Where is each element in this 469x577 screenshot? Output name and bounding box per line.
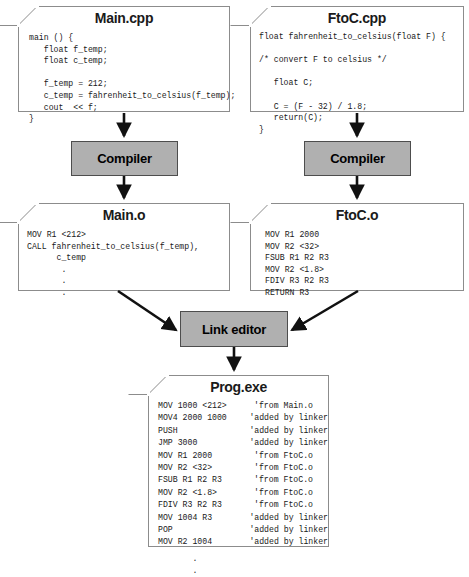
process-compiler-left[interactable]: Compiler bbox=[71, 141, 178, 176]
listing-instruction: JMP 3000 bbox=[158, 437, 249, 449]
listing-row: MOV R2 1004'added by linker bbox=[158, 536, 328, 548]
listing-comment: 'added by linker bbox=[249, 412, 328, 424]
listing-instruction: FDIV R3 R2 R3 bbox=[158, 499, 254, 511]
process-label-compiler-left: Compiler bbox=[97, 151, 152, 166]
listing-instruction: MOV 1000 <212> bbox=[158, 400, 254, 412]
document-ftoc-cpp: FtoC.cpp float fahrenheit_to_celsius(flo… bbox=[250, 6, 464, 112]
code-ftoc-o: MOV R1 2000 MOV R2 <32> FSUB R1 R2 R3 MO… bbox=[265, 229, 463, 299]
listing-instruction: FSUB R1 R2 R3 bbox=[158, 474, 254, 486]
document-ftoc-o: FtoC.o MOV R1 2000 MOV R2 <32> FSUB R1 R… bbox=[250, 203, 464, 291]
listing-row: MOV4 2000 1000'added by linker bbox=[158, 412, 328, 424]
listing-comment: 'added by linker bbox=[249, 425, 328, 437]
listing-row: MOV 1000 <212>'from Main.o bbox=[158, 400, 328, 412]
listing-row: POP'added by linker bbox=[158, 524, 328, 536]
listing-row: FSUB R1 R2 R3'from FtoC.o bbox=[158, 474, 328, 486]
document-prog-exe: Prog.exe MOV 1000 <212>'from Main.oMOV4 … bbox=[148, 375, 329, 547]
listing-instruction: MOV4 2000 1000 bbox=[158, 412, 249, 424]
listing-comment: 'from FtoC.o bbox=[254, 474, 313, 486]
document-title-prog-exe: Prog.exe bbox=[149, 376, 328, 395]
listing-instruction: MOV R2 1004 bbox=[158, 536, 249, 548]
process-compiler-right[interactable]: Compiler bbox=[304, 141, 411, 176]
process-label-link-editor: Link editor bbox=[202, 322, 266, 337]
listing-row: PUSH'added by linker bbox=[158, 425, 328, 437]
listing-row: MOV R2 <32>'from FtoC.o bbox=[158, 462, 328, 474]
listing-row: FDIV R3 R2 R3'from FtoC.o bbox=[158, 499, 328, 511]
listing-comment: 'from FtoC.o bbox=[254, 499, 313, 511]
listing-prog-exe: MOV 1000 <212>'from Main.oMOV4 2000 1000… bbox=[158, 400, 328, 549]
document-title-main-o: Main.o bbox=[19, 204, 229, 223]
listing-instruction: MOV R2 <32> bbox=[158, 462, 254, 474]
listing-comment: 'added by linker bbox=[249, 437, 328, 449]
listing-row: JMP 3000'added by linker bbox=[158, 437, 328, 449]
listing-instruction: POP bbox=[158, 524, 249, 536]
listing-instruction: MOV R1 2000 bbox=[158, 450, 254, 462]
process-label-compiler-right: Compiler bbox=[330, 151, 385, 166]
listing-trailing-dots: . . bbox=[158, 553, 328, 577]
listing-comment: 'from FtoC.o bbox=[254, 487, 313, 499]
listing-comment: 'from Main.o bbox=[254, 400, 313, 412]
listing-instruction: MOV R2 <1.8> bbox=[158, 487, 254, 499]
document-main-cpp: Main.cpp main () { float f_temp; float c… bbox=[18, 6, 230, 112]
listing-comment: 'from FtoC.o bbox=[254, 462, 313, 474]
listing-row: MOV R1 2000'from FtoC.o bbox=[158, 450, 328, 462]
document-title-main-cpp: Main.cpp bbox=[19, 7, 229, 26]
listing-comment: 'added by linker bbox=[249, 524, 328, 536]
code-main-cpp: main () { float f_temp; float c_temp; f_… bbox=[29, 32, 229, 125]
listing-comment: 'added by linker bbox=[249, 536, 328, 548]
code-ftoc-cpp: float fahrenheit_to_celsius(float F) { /… bbox=[259, 31, 463, 135]
document-title-ftoc-o: FtoC.o bbox=[251, 204, 463, 223]
listing-comment: 'from FtoC.o bbox=[254, 450, 313, 462]
listing-row: MOV 1004 R3'added by linker bbox=[158, 512, 328, 524]
document-title-ftoc-cpp: FtoC.cpp bbox=[251, 7, 463, 26]
listing-instruction: PUSH bbox=[158, 425, 249, 437]
code-main-o: MOV R1 <212> CALL fahrenheit_to_celsius(… bbox=[27, 229, 229, 299]
listing-comment: 'added by linker bbox=[249, 512, 328, 524]
document-main-o: Main.o MOV R1 <212> CALL fahrenheit_to_c… bbox=[18, 203, 230, 291]
process-link-editor[interactable]: Link editor bbox=[180, 311, 288, 347]
listing-row: MOV R2 <1.8>'from FtoC.o bbox=[158, 487, 328, 499]
listing-instruction: MOV 1004 R3 bbox=[158, 512, 249, 524]
